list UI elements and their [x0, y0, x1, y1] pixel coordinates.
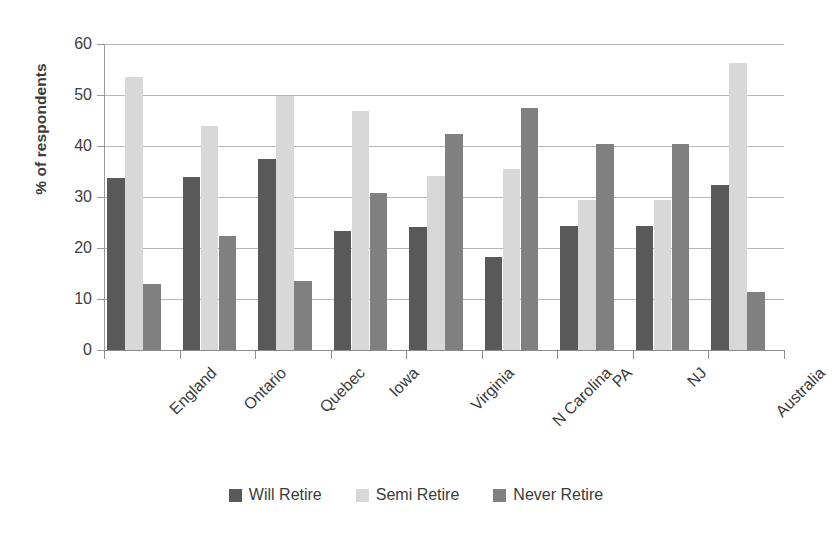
- legend-swatch-icon: [356, 489, 369, 502]
- bar-group: [255, 44, 331, 350]
- bar: [654, 200, 672, 350]
- bar: [711, 185, 729, 350]
- plot-area: [104, 44, 784, 350]
- x-tick-mark: [708, 351, 709, 359]
- bar-group: [406, 44, 482, 350]
- legend-item: Will Retire: [229, 486, 322, 504]
- bar-chart: % of respondents 0102030405060 EnglandOn…: [0, 0, 832, 534]
- bar: [125, 77, 143, 350]
- y-tick-label: 10: [46, 291, 92, 307]
- bar: [219, 236, 237, 350]
- x-tick-label: NJ: [684, 364, 711, 391]
- y-tick-label: 0: [46, 342, 92, 358]
- x-tick-label: N Carolina: [549, 364, 615, 430]
- bar: [294, 281, 312, 350]
- legend-label: Never Retire: [513, 486, 603, 504]
- x-tick-label: Virginia: [467, 364, 517, 414]
- bar: [409, 227, 427, 350]
- bar: [560, 226, 578, 350]
- bar: [503, 169, 521, 350]
- bar-group: [104, 44, 180, 350]
- bar: [578, 200, 596, 350]
- bar: [183, 177, 201, 350]
- y-tick-mark: [97, 44, 104, 45]
- bar-group: [557, 44, 633, 350]
- legend-swatch-icon: [493, 489, 506, 502]
- x-tick-label: Ontario: [240, 364, 290, 414]
- x-tick-mark: [104, 351, 105, 359]
- x-tick-label: PA: [609, 364, 636, 391]
- bar: [427, 176, 445, 350]
- bar-group: [180, 44, 256, 350]
- y-tick-mark: [97, 146, 104, 147]
- x-tick-mark: [331, 351, 332, 359]
- y-tick-label: 60: [46, 36, 92, 52]
- bar-group: [633, 44, 709, 350]
- bar: [445, 134, 463, 350]
- bar: [596, 144, 614, 350]
- y-axis-tick-labels: 0102030405060: [40, 0, 92, 534]
- bar: [636, 226, 654, 350]
- bar: [107, 178, 125, 350]
- legend-item: Never Retire: [493, 486, 603, 504]
- bar: [201, 126, 219, 350]
- bar: [747, 292, 765, 350]
- y-tick-label: 30: [46, 189, 92, 205]
- y-tick-label: 20: [46, 240, 92, 256]
- bar: [258, 159, 276, 350]
- chart-legend: Will RetireSemi RetireNever Retire: [0, 486, 832, 504]
- x-tick-mark: [255, 351, 256, 359]
- x-tick-mark: [406, 351, 407, 359]
- legend-item: Semi Retire: [356, 486, 460, 504]
- x-axis-line: [104, 350, 785, 351]
- y-tick-mark: [97, 248, 104, 249]
- y-tick-mark: [97, 299, 104, 300]
- legend-swatch-icon: [229, 489, 242, 502]
- y-tick-label: 50: [46, 87, 92, 103]
- x-tick-mark: [557, 351, 558, 359]
- bar: [352, 111, 370, 350]
- bar: [672, 144, 690, 350]
- y-tick-label: 40: [46, 138, 92, 154]
- x-tick-label: Quebec: [317, 364, 369, 416]
- x-tick-mark: [633, 351, 634, 359]
- y-tick-mark: [97, 197, 104, 198]
- x-tick-mark: [482, 351, 483, 359]
- bar-group: [708, 44, 784, 350]
- bar: [370, 193, 388, 350]
- x-tick-mark: [784, 351, 785, 359]
- bar: [729, 63, 747, 350]
- x-tick-mark: [180, 351, 181, 359]
- bar-group: [482, 44, 558, 350]
- bar: [521, 108, 539, 350]
- x-tick-label: Australia: [772, 364, 829, 421]
- y-tick-mark: [97, 350, 104, 351]
- bar: [276, 96, 294, 350]
- bar: [143, 284, 161, 350]
- x-tick-label: Iowa: [386, 364, 423, 401]
- bar-group: [331, 44, 407, 350]
- x-tick-label: England: [167, 364, 221, 418]
- legend-label: Will Retire: [249, 486, 322, 504]
- legend-label: Semi Retire: [376, 486, 460, 504]
- y-tick-mark: [97, 95, 104, 96]
- bar: [334, 231, 352, 350]
- bar: [485, 257, 503, 350]
